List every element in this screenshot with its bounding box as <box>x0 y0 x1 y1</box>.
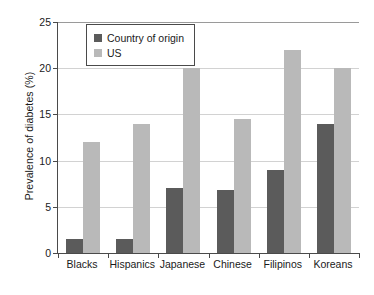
bar-koreans-us <box>334 68 351 253</box>
bar-chinese-us <box>234 119 251 253</box>
bar-koreans-country-of-origin <box>317 124 334 253</box>
y-axis-title: Prevalence of diabetes (%) <box>23 21 35 251</box>
x-label-filipinos: Filipinos <box>258 258 308 270</box>
bar-chinese-country-of-origin <box>217 190 234 253</box>
bar-blacks-us <box>83 142 100 253</box>
legend-item-us: US <box>94 45 184 60</box>
bar-group-filipinos <box>259 22 309 253</box>
legend: Country of origin US <box>86 24 195 66</box>
x-label-japanese: Japanese <box>157 258 207 270</box>
bar-hispanics-us <box>133 124 150 253</box>
bar-blacks-country-of-origin <box>66 239 83 253</box>
x-label-koreans: Koreans <box>308 258 358 270</box>
legend-label-country-of-origin: Country of origin <box>107 32 184 44</box>
bar-japanese-country-of-origin <box>166 188 183 253</box>
bar-group-koreans <box>309 22 359 253</box>
legend-label-us: US <box>107 47 122 59</box>
bar-group-chinese <box>209 22 259 253</box>
bar-hispanics-country-of-origin <box>116 239 133 253</box>
x-tick-mark-6 <box>359 253 360 258</box>
bar-filipinos-us <box>284 50 301 253</box>
x-axis-labels: BlacksHispanicsJapaneseChineseFilipinosK… <box>57 258 358 270</box>
legend-swatch-icon-us <box>94 49 102 57</box>
diabetes-prevalence-bar-chart: Prevalence of diabetes (%) 0510152025 Bl… <box>0 0 374 295</box>
bar-japanese-us <box>183 68 200 253</box>
legend-item-country-of-origin: Country of origin <box>94 30 184 45</box>
x-label-hispanics: Hispanics <box>107 258 157 270</box>
bar-filipinos-country-of-origin <box>267 170 284 253</box>
legend-swatch-icon-country-of-origin <box>94 34 102 42</box>
x-label-blacks: Blacks <box>57 258 107 270</box>
x-label-chinese: Chinese <box>208 258 258 270</box>
